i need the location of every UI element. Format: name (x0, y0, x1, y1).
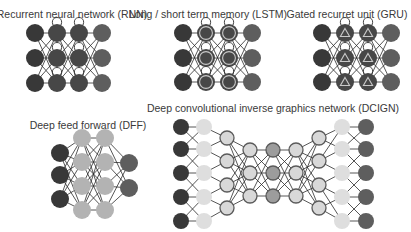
output-cell (358, 165, 374, 181)
output-cell (358, 141, 374, 157)
lstm-layer0-node0 (174, 24, 192, 42)
output-cell (93, 24, 111, 42)
dcign-layer2-node2 (220, 178, 234, 192)
gru-layer3-node0 (382, 24, 400, 42)
input-cell (173, 189, 189, 205)
dff-layer1-node3 (73, 201, 91, 219)
input-cell (173, 119, 189, 135)
gru-self-loop (363, 67, 372, 75)
dcign-layer4-node2 (266, 189, 280, 203)
gru-layer2-node1 (359, 49, 377, 67)
output-cell (358, 213, 374, 229)
dcign-layer8-node0 (358, 119, 374, 135)
gru-layer0-node1 (313, 49, 331, 67)
hidden-cell (96, 129, 114, 147)
lstm-layer3-node1 (243, 49, 261, 67)
kernel-cell (196, 213, 212, 229)
rnn-self-loop (74, 68, 83, 76)
lstm-self-loop (224, 67, 233, 75)
dff-layer1-node1 (73, 153, 91, 171)
dcign-layer5-node2 (289, 189, 303, 203)
output-cell (358, 119, 374, 135)
kernel-cell (196, 119, 212, 135)
dcign-layer3-node1 (243, 166, 257, 180)
rnn-layer0-node1 (26, 49, 44, 67)
convolution-cell (289, 166, 303, 180)
convolution-cell (243, 166, 257, 180)
dff-layer0-node2 (51, 190, 69, 208)
lstm-layer2-node1 (220, 49, 238, 67)
gru-layer0-node0 (313, 24, 331, 42)
dcign-layer4-node1 (266, 166, 280, 180)
gated-cell (359, 49, 377, 67)
gated-cell (359, 73, 377, 91)
rnn-self-loop (52, 68, 61, 76)
dcign-layer1-node4 (196, 213, 212, 229)
output-cell (120, 154, 138, 172)
rnn-layer1-node0 (48, 24, 66, 42)
recurrent-cell (48, 74, 66, 92)
probabilistic-hidden-cell (266, 189, 280, 203)
dcign-layer5-node1 (289, 166, 303, 180)
input-cell (26, 74, 44, 92)
dcign-layer3-node2 (243, 189, 257, 203)
input-cell (26, 24, 44, 42)
lstm-layer0-node1 (174, 49, 192, 67)
lstm-layer2-node2 (220, 73, 238, 91)
dcign-layer0-node4 (173, 213, 189, 229)
input-cell (26, 49, 44, 67)
gru-layer1-node2 (336, 73, 354, 91)
gru-layer2-node2 (359, 73, 377, 91)
input-cell (174, 73, 192, 91)
hidden-cell (73, 153, 91, 171)
dcign-layer6-node0 (312, 131, 326, 145)
input-cell (174, 24, 192, 42)
dff-layer0-node0 (51, 144, 69, 162)
dcign-layer0-node3 (173, 189, 189, 205)
dcign-layer2-node1 (220, 154, 234, 168)
dff-layer1-node2 (73, 177, 91, 195)
recurrent-cell (70, 49, 88, 67)
output-cell (93, 49, 111, 67)
dcign-layer6-node2 (312, 178, 326, 192)
lstm-layer3-node2 (243, 73, 261, 91)
lstm-self-loop (201, 67, 210, 75)
output-cell (243, 49, 261, 67)
hidden-cell (96, 201, 114, 219)
output-cell (243, 73, 261, 91)
gru-layer0-node2 (313, 73, 331, 91)
rnn-layer1-node2 (48, 74, 66, 92)
convolution-cell (312, 201, 326, 215)
output-cell (382, 49, 400, 67)
convolution-cell (220, 201, 234, 215)
dcign-layer2-node3 (220, 201, 234, 215)
dff-layer3-node0 (120, 154, 138, 172)
gated-cell (359, 24, 377, 42)
gru-self-loop (340, 43, 349, 51)
convolution-cell (312, 131, 326, 145)
dcign-layer8-node3 (358, 189, 374, 205)
input-cell (313, 73, 331, 91)
recurrent-cell (48, 24, 66, 42)
dff-title: Deep feed forward (DFF) (30, 119, 147, 131)
dcign-layer6-node3 (312, 201, 326, 215)
lstm-layer2-node0 (220, 24, 238, 42)
gru-layer2-node0 (359, 24, 377, 42)
input-cell (313, 49, 331, 67)
rnn-layer3-node0 (93, 24, 111, 42)
gru-self-loop (340, 67, 349, 75)
input-cell (51, 190, 69, 208)
dcign-layer7-node3 (334, 189, 350, 205)
rnn-layer2-node1 (70, 49, 88, 67)
dcign-layer7-node4 (334, 213, 350, 229)
output-cell (382, 24, 400, 42)
dcign-title: Deep convolutional inverse graphics netw… (147, 102, 399, 114)
kernel-cell (334, 119, 350, 135)
dcign-layer3-node0 (243, 143, 257, 157)
convolution-cell (220, 131, 234, 145)
dcign-layer7-node0 (334, 119, 350, 135)
probabilistic-hidden-cell (266, 143, 280, 157)
dff-layer1-node0 (73, 129, 91, 147)
recurrent-cell (70, 24, 88, 42)
gated-cell (336, 73, 354, 91)
